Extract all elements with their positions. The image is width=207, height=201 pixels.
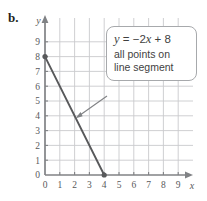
x-axis-arrow (185, 172, 193, 179)
callout-pointer-arrowhead (75, 112, 82, 118)
x-tick-1: 1 (57, 180, 62, 190)
x-tick-6: 6 (131, 180, 136, 190)
y-tick-labels: 0 1 2 3 4 5 6 7 8 9 (35, 37, 40, 180)
callout-line-2: all points on (114, 48, 190, 62)
x-tick-4: 4 (102, 180, 107, 190)
y-tick-6: 6 (35, 82, 40, 92)
y-tick-1: 1 (35, 156, 40, 166)
x-axis-label: x (189, 180, 195, 191)
x-tick-2: 2 (72, 180, 77, 190)
y-tick-0: 0 (35, 170, 40, 180)
callout-equation-rest: = −2 (120, 33, 146, 45)
y-axis-label: y (35, 15, 41, 26)
equation-callout: y = −2x + 8 all points on line segment (106, 26, 197, 81)
callout-pointer-line (78, 96, 107, 117)
y-tick-7: 7 (35, 67, 40, 77)
y-tick-8: 8 (35, 52, 40, 62)
y-tick-3: 3 (35, 126, 40, 136)
x-tick-3: 3 (87, 180, 92, 190)
x-tick-labels: 0 1 2 3 4 5 6 7 8 9 (43, 180, 181, 190)
x-tick-7: 7 (146, 180, 151, 190)
callout-equation: y = −2x + 8 (114, 31, 190, 48)
y-tick-4: 4 (35, 111, 40, 121)
y-tick-5: 5 (35, 96, 40, 106)
callout-line-3: line segment (114, 61, 190, 75)
endpoint-dot-0-8 (42, 54, 47, 59)
x-tick-9: 9 (176, 180, 181, 190)
x-tick-5: 5 (117, 180, 122, 190)
y-axis-arrow (42, 15, 49, 23)
y-tick-9: 9 (35, 37, 40, 47)
graph-figure: b. (0, 0, 207, 201)
y-tick-2: 2 (35, 141, 40, 151)
x-tick-8: 8 (161, 180, 166, 190)
endpoint-dot-4-0 (102, 172, 107, 177)
x-tick-0: 0 (43, 180, 48, 190)
callout-equation-tail: + 8 (151, 33, 171, 45)
